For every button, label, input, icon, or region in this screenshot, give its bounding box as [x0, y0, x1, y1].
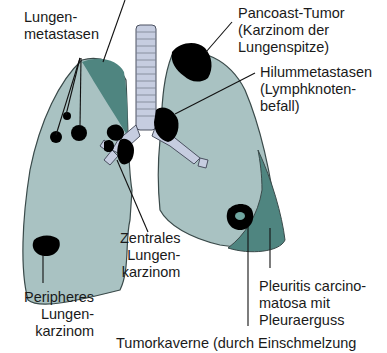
label-hilummetastasen: Hilummetastasen (Lymphknoten- befall) — [260, 64, 372, 115]
label-pancoast-tumor: Pancoast-Tumor (Karzinom der Lungenspitz… — [238, 5, 345, 56]
metastasis-1 — [50, 131, 62, 143]
label-zentrales-lungenkarzinom: Zentrales Lungen- karzinom — [120, 230, 180, 281]
label-peripheres-lungenkarzinom: Peripheres Lungen- karzinom — [24, 289, 94, 340]
central-tumor-3 — [104, 140, 114, 152]
metastasis-3 — [71, 125, 87, 141]
lung-cancer-diagram: Lungen- metastasen Pancoast-Tumor (Karzi… — [0, 0, 387, 353]
label-lungenmetastasen: Lungen- metastasen — [24, 9, 99, 43]
label-pleuritis-carcinomatosa: Pleuritis carcino- matosa mit Pleuraergu… — [259, 278, 366, 329]
label-tumorkaverne: Tumorkaverne (durch Einschmelzung — [116, 335, 356, 352]
